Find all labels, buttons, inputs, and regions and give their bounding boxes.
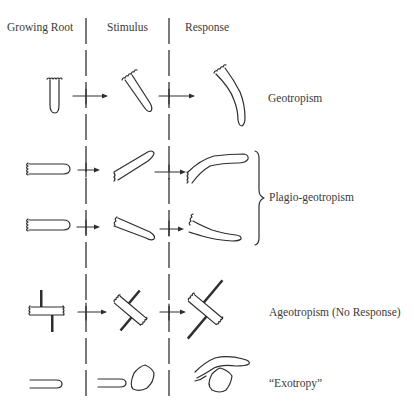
root-curved-down: [214, 65, 245, 126]
root-vertical: [47, 78, 62, 113]
arrow-icon: [159, 89, 195, 104]
label-geotropism: Geotropism: [268, 92, 322, 104]
obstacle: [209, 368, 232, 392]
root-tilted-down: [114, 217, 155, 240]
plagio-lower-row: [27, 214, 242, 241]
plagio-upper-row: [27, 151, 249, 183]
arrow-icon: [78, 163, 100, 177]
root-tilted: [122, 70, 152, 112]
root-tilted-up: [114, 151, 154, 181]
obstacle: [131, 365, 154, 390]
root-horizontal: [27, 163, 71, 175]
label-plagio-geotropism: Plagio-geotropism: [269, 191, 354, 203]
exotropy-row: [30, 357, 249, 392]
label-exotropy: “Exotropy”: [269, 377, 322, 389]
ageotropism-row: [29, 271, 241, 347]
arrow-icon: [73, 89, 108, 104]
arrow-icon: [77, 220, 100, 234]
root-horizontal: [27, 219, 71, 231]
arrow-icon: [78, 303, 107, 320]
bracket-icon: [255, 151, 264, 245]
label-ageotropism: Ageotropism (No Response): [269, 306, 401, 318]
tropism-diagram: [0, 0, 414, 418]
arrow-icon: [155, 165, 186, 179]
arrow-icon: [160, 221, 184, 236]
root-curved-up: [187, 154, 248, 183]
geotropism-row: [47, 65, 245, 126]
arrow-icon: [160, 304, 186, 320]
root-curved-down-plagio: [189, 214, 241, 241]
